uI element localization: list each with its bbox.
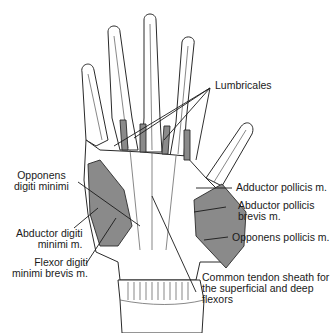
thumb bbox=[206, 123, 253, 186]
label-flexor-digiti-minimi-brevis: Flexor digiti minimi brevis m. bbox=[12, 257, 88, 279]
forearm bbox=[118, 280, 204, 333]
label-opponens-pollicis: Opponens pollicis m. bbox=[232, 232, 329, 243]
label-opponens-digiti-minimi: Opponens digiti minimi bbox=[14, 170, 69, 192]
label-abductor-pollicis-brevis: Abductor pollicis brevis m. bbox=[238, 200, 314, 222]
label-adductor-pollicis: Adductor pollicis m. bbox=[236, 182, 327, 193]
index-finger bbox=[170, 37, 194, 156]
lumbrical-3 bbox=[162, 126, 170, 154]
label-common-tendon-sheath: Common tendon sheath for the superficial… bbox=[202, 272, 329, 305]
label-abductor-digiti-minimi: Abductor digiti minimi m. bbox=[16, 228, 83, 250]
lumbrical-4 bbox=[184, 130, 190, 160]
label-lumbricales: Lumbricales bbox=[215, 80, 272, 91]
